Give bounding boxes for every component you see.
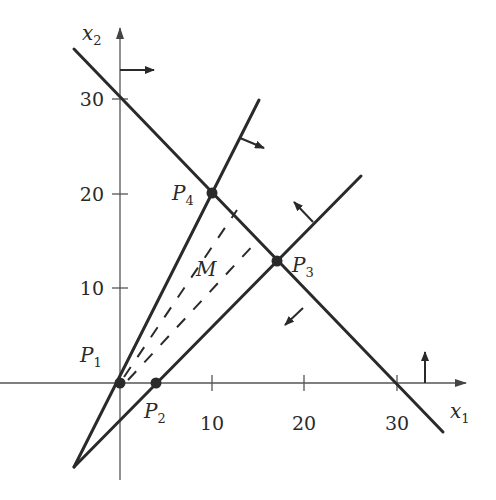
vertex-p1: [115, 378, 126, 389]
svg-text:P3: P3: [291, 253, 314, 280]
linear-program-diagram: 10 20 30 10 20 30 x1 x2 P1: [0, 0, 496, 500]
arrow-sum-line: [285, 308, 303, 325]
feasibility-arrows: [120, 70, 425, 383]
vertex-label-p1: P1: [79, 343, 102, 370]
axis-ticks: [112, 99, 397, 391]
vertex-p4: [207, 188, 218, 199]
x-tick-30: 30: [385, 412, 409, 434]
svg-text:P2: P2: [143, 399, 166, 426]
svg-text:x2: x2: [82, 21, 102, 48]
y-tick-10: 10: [80, 277, 104, 299]
vertex-label-p2: P2: [143, 399, 166, 426]
svg-text:x1: x1: [450, 399, 470, 426]
vertex-p2: [151, 378, 162, 389]
region-label-m: M: [195, 257, 217, 281]
vertex-label-p3: P3: [291, 253, 314, 280]
arrow-steep-line: [240, 138, 264, 148]
vertex-p3: [272, 256, 283, 267]
constraint-lines: [74, 49, 443, 467]
x1-axis-label: x1: [450, 399, 470, 426]
vertex-label-p4: P4: [171, 181, 194, 208]
y-tick-20: 20: [80, 183, 104, 205]
svg-text:P4: P4: [171, 181, 194, 208]
x2-axis-label: x2: [82, 21, 102, 48]
x-tick-20: 20: [292, 412, 316, 434]
y-tick-30: 30: [80, 88, 104, 110]
arrow-p2p3-line: [294, 202, 313, 222]
x-tick-10: 10: [200, 412, 224, 434]
svg-text:P1: P1: [79, 343, 102, 370]
constraint-line-sum: [74, 49, 443, 432]
